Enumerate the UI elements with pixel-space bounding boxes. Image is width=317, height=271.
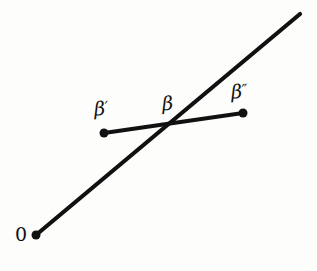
- figure-canvas: 0 β′ β β″: [0, 0, 317, 271]
- diagram-svg: [0, 0, 317, 271]
- segment-beta-prime-to-beta-double-prime-marker-1: [239, 109, 248, 118]
- segment-beta-prime-to-beta-double-prime-marker-0: [100, 129, 109, 138]
- beta-label: β: [161, 94, 173, 114]
- line-group: [36, 14, 300, 235]
- beta-double-prime-label: β″: [230, 81, 247, 101]
- ray-from-origin-marker-0: [32, 231, 41, 240]
- segment-beta-prime-to-beta-double-prime-line: [104, 113, 243, 133]
- beta-prime-label: β′: [93, 99, 108, 119]
- origin-label: 0: [15, 225, 27, 244]
